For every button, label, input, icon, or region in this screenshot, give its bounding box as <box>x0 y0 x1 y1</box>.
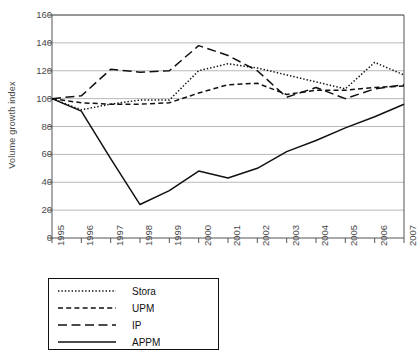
x-tick-label: 1996 <box>85 225 95 246</box>
legend-swatch-appm <box>56 336 118 348</box>
legend-swatch-ip <box>56 319 118 331</box>
x-tick-label: 2003 <box>291 225 301 246</box>
legend-item-stora: Stora <box>49 282 220 300</box>
x-tick-label: 1997 <box>115 225 125 246</box>
legend-swatch-stora <box>56 285 118 297</box>
x-tick-label: 2007 <box>408 225 418 246</box>
series-line-stora <box>52 62 404 109</box>
legend-item-upm: UPM <box>49 299 220 317</box>
x-tick-label: 2001 <box>232 225 242 246</box>
legend-label: IP <box>132 320 141 331</box>
x-tick-label: 1998 <box>144 225 154 246</box>
line-chart: Volume growth index 16014012010080604020… <box>0 0 420 360</box>
series-line-upm <box>52 83 404 104</box>
chart-legend: StoraUPMIPAPPM <box>48 278 219 350</box>
series-line-ip <box>52 46 404 99</box>
legend-swatch-upm <box>56 302 118 314</box>
legend-label: UPM <box>132 303 154 314</box>
legend-item-appm: APPM <box>49 333 220 351</box>
legend-item-ip: IP <box>49 316 220 334</box>
x-tick-label: 2000 <box>203 225 213 246</box>
x-tick-label: 2004 <box>320 225 330 246</box>
x-tick-label: 2005 <box>349 225 359 246</box>
series-line-appm <box>52 99 404 205</box>
x-tick-label: 1995 <box>56 225 66 246</box>
x-tick-label: 2002 <box>261 225 271 246</box>
x-tick-label: 1999 <box>173 225 183 246</box>
x-tick-label: 2006 <box>379 225 389 246</box>
legend-label: APPM <box>132 337 160 348</box>
legend-label: Stora <box>132 286 156 297</box>
